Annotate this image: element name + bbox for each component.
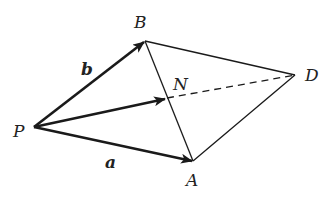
segment-BD [145, 41, 295, 75]
label-vector-a: a [105, 152, 116, 172]
label-point-N: N [172, 74, 189, 94]
label-point-D: D [304, 65, 319, 85]
label-point-B: B [133, 12, 147, 32]
vector-diagram: B N P A D b a [0, 0, 328, 203]
label-vector-b: b [81, 59, 93, 79]
segment-AD [193, 75, 295, 161]
label-point-P: P [12, 121, 25, 141]
label-point-A: A [184, 170, 198, 190]
